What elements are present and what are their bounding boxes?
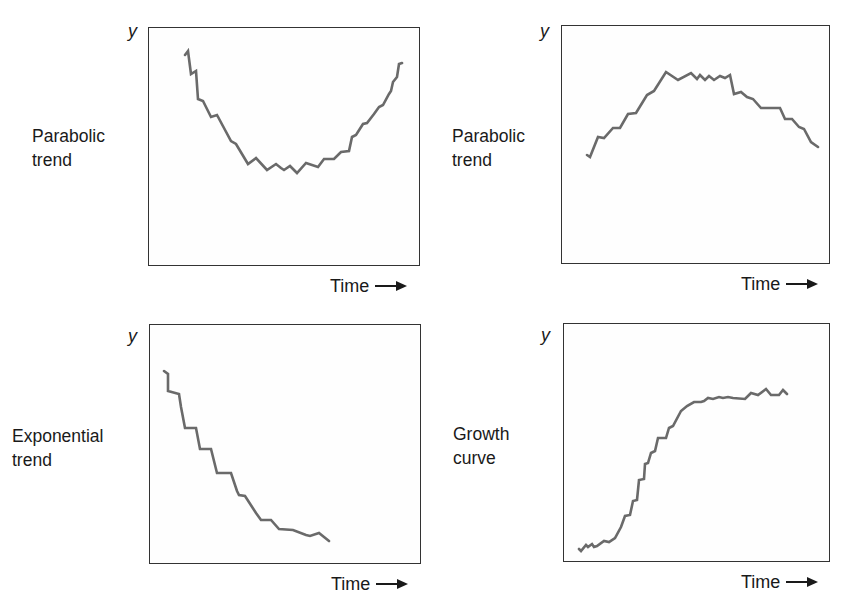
plot-frame [149,324,421,564]
plot-frame [148,27,420,266]
plot-frame [563,323,830,562]
panel-title: Parabolic trend [32,124,105,172]
right-arrow-icon [786,577,818,587]
y-axis-label: y [540,22,549,40]
x-axis-label: Time [741,274,818,294]
x-axis-label: Time [331,574,408,594]
right-arrow-icon [375,281,407,291]
x-axis-text: Time [330,276,369,296]
x-axis-label: Time [741,572,818,592]
x-axis-text: Time [741,572,780,592]
growth-line [564,324,829,561]
y-axis-label: y [541,326,550,344]
y-axis-label: y [128,22,137,40]
panel-title: Growth curve [453,422,509,470]
x-axis-label: Time [330,276,407,296]
y-axis-label: y [128,327,137,345]
x-axis-text: Time [331,574,370,594]
right-arrow-icon [786,279,818,289]
x-axis-text: Time [741,274,780,294]
right-arrow-icon [376,579,408,589]
panel-title: Exponential trend [12,424,103,472]
trend-line [149,28,419,265]
trend-line [562,26,829,263]
panel-title: Parabolic trend [452,124,525,172]
plot-frame [561,25,830,264]
trend-line [150,325,420,563]
